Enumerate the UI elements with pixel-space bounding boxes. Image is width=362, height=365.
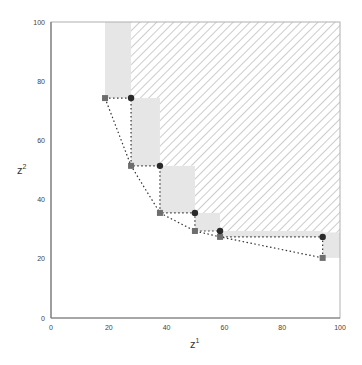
square-marker [157, 210, 163, 216]
gray-region [131, 98, 160, 166]
square-marker [128, 163, 134, 169]
square-marker [102, 95, 108, 101]
x-axis-label: z1 [190, 337, 200, 350]
circle-marker [128, 95, 134, 101]
y-tick-label: 40 [37, 196, 45, 203]
y-tick-label: 60 [37, 137, 45, 144]
x-tick-label: 0 [49, 324, 53, 331]
x-tick-label: 60 [221, 324, 229, 331]
circle-marker [217, 228, 223, 234]
x-tick-label: 100 [334, 324, 346, 331]
gray-region [105, 22, 131, 98]
square-marker [217, 234, 223, 240]
square-marker [320, 255, 326, 261]
gray-region [160, 166, 195, 213]
x-tick-label: 80 [278, 324, 286, 331]
x-tick-labels: 020406080100 [49, 324, 346, 331]
y-tick-label: 100 [33, 19, 45, 26]
pareto-front-chart: 020406080100 020406080100 z1 z2 [0, 0, 362, 365]
y-tick-label: 0 [41, 315, 45, 322]
gray-region [195, 213, 220, 231]
x-tick-label: 20 [105, 324, 113, 331]
y-tick-labels: 020406080100 [33, 19, 45, 322]
y-axis-label: z2 [17, 163, 27, 176]
x-tick-label: 40 [163, 324, 171, 331]
circle-marker [192, 210, 198, 216]
gray-region [323, 237, 340, 258]
circle-marker [319, 234, 325, 240]
shaded-regions [105, 22, 340, 258]
y-tick-label: 80 [37, 78, 45, 85]
circle-marker [157, 163, 163, 169]
square-marker [192, 228, 198, 234]
y-tick-label: 20 [37, 255, 45, 262]
